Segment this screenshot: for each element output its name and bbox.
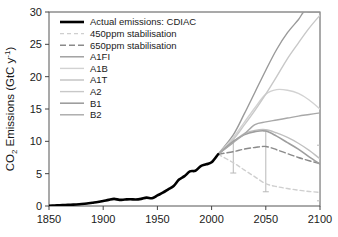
x-tick-label: 2100 xyxy=(308,213,332,225)
legend-item: A1FI xyxy=(60,51,110,62)
legend-item: A2 xyxy=(60,86,102,97)
y-axis-tick-labels: 051015202530 xyxy=(30,6,42,212)
y-tick-label: 0 xyxy=(36,200,42,212)
legend-item: 450ppm stabilisation xyxy=(60,28,177,39)
x-tick-label: 1950 xyxy=(145,213,169,225)
y-tick-label: 10 xyxy=(30,135,42,147)
legend-item: A1B xyxy=(60,63,108,74)
legend-item: B2 xyxy=(60,109,102,120)
y-axis-ticks xyxy=(45,12,49,206)
y-tick-label: 20 xyxy=(30,71,42,83)
legend-item: Actual emissions: CDIAC xyxy=(60,16,196,27)
legend-label: A2 xyxy=(90,86,102,97)
legend-label: B2 xyxy=(90,109,102,120)
legend-label: A1T xyxy=(90,74,108,85)
y-tick-label: 30 xyxy=(30,6,42,18)
y-tick-label: 25 xyxy=(30,38,42,50)
legend-label: 650ppm stabilisation xyxy=(90,40,177,51)
y-tick-label: 15 xyxy=(30,103,42,115)
y-axis-title: CO2 Emissions (GtC y-1) xyxy=(3,47,19,172)
legend-item: 650ppm stabilisation xyxy=(60,40,177,51)
series-line xyxy=(49,154,218,205)
legend-item: B1 xyxy=(60,98,102,109)
legend-label: A1FI xyxy=(90,51,110,62)
x-tick-label: 2000 xyxy=(199,213,223,225)
x-axis-ticks xyxy=(49,206,320,210)
x-tick-label: 2050 xyxy=(254,213,278,225)
chart-legend: Actual emissions: CDIAC450ppm stabilisat… xyxy=(60,16,196,120)
y-axis-title-text: CO2 Emissions (GtC y-1) xyxy=(3,47,19,172)
legend-label: 450ppm stabilisation xyxy=(90,28,177,39)
y-tick-label: 5 xyxy=(36,168,42,180)
legend-label: B1 xyxy=(90,98,102,109)
chart-canvas: 185019001950200020502100 051015202530 CO… xyxy=(0,0,338,237)
co2-emissions-chart: 185019001950200020502100 051015202530 CO… xyxy=(0,0,338,237)
x-tick-label: 1850 xyxy=(37,213,61,225)
legend-item: A1T xyxy=(60,74,108,85)
x-axis-tick-labels: 185019001950200020502100 xyxy=(37,213,332,225)
legend-label: A1B xyxy=(90,63,108,74)
error-bars xyxy=(230,131,323,201)
x-tick-label: 1900 xyxy=(91,213,115,225)
legend-label: Actual emissions: CDIAC xyxy=(90,16,196,27)
